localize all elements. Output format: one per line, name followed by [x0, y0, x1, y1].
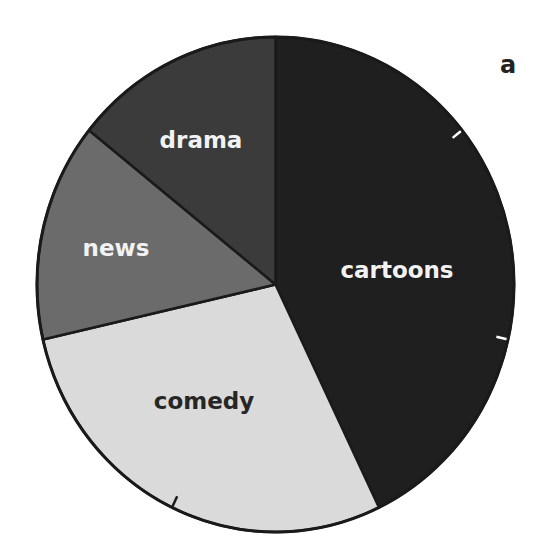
slice-label-drama: drama — [160, 127, 243, 153]
pie-chart: cartoons comedy news drama — [0, 0, 543, 557]
slice-label-cartoons: cartoons — [340, 257, 453, 283]
panel-label: a — [500, 51, 516, 79]
pie-slices — [37, 37, 514, 532]
slice-label-comedy: comedy — [154, 388, 254, 414]
slice-label-news: news — [83, 235, 150, 261]
